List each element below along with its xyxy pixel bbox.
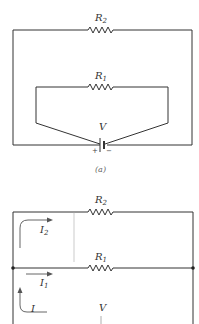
resistor-r1-icon: [88, 84, 113, 90]
resistor-r2-icon: [88, 27, 113, 33]
battery-icon: [100, 138, 104, 152]
junction-right: [191, 266, 195, 270]
battery-plus: +: [92, 147, 98, 155]
label-r1-b: R1: [94, 251, 107, 264]
resistor-r2-icon: [88, 209, 113, 215]
inner-wire: [36, 87, 168, 144]
label-i1: I1: [39, 277, 48, 290]
label-r2-a: R2: [94, 12, 108, 25]
resistor-r1-icon: [88, 265, 113, 271]
label-r1-a: R1: [94, 70, 107, 83]
label-v-a: V: [99, 121, 108, 132]
junction-left: [11, 266, 15, 270]
battery-minus: −: [106, 147, 112, 155]
circuit-diagrams: R2 R1 V + − (a) R2 R1 I2 I1 I V: [0, 0, 199, 324]
label-r2-b: R2: [94, 194, 108, 207]
figure-a: [13, 27, 192, 152]
label-v-b: V: [99, 302, 108, 313]
caption-a: (a): [95, 165, 106, 174]
label-i2: I2: [39, 224, 49, 237]
